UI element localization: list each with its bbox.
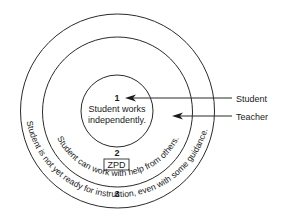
student-label: Student (236, 94, 268, 104)
zone-1-number: 1 (114, 93, 119, 103)
zone-1-text-line1: Student works (88, 104, 146, 114)
teacher-label: Teacher (236, 112, 268, 122)
zone-2-number: 2 (114, 148, 119, 158)
zpd-diagram: 1 Student works independently. 2 ZPD Stu… (0, 0, 284, 223)
zone-1-text-line2: independently. (88, 115, 146, 125)
